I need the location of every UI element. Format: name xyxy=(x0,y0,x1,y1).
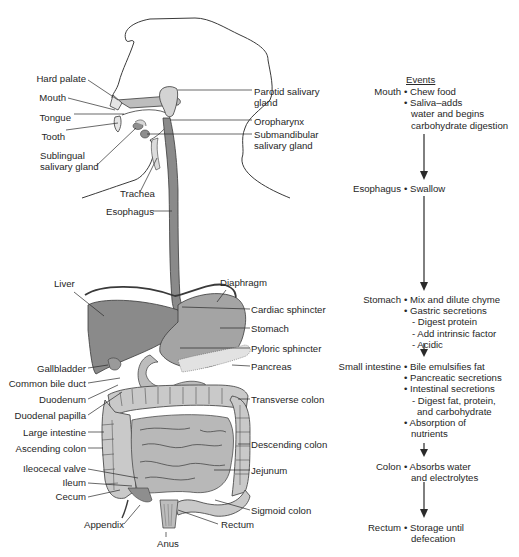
label-common-bile-duct: Common bile duct xyxy=(0,378,86,389)
event-item: • Saliva–adds xyxy=(404,97,508,108)
event-item: and carbohydrate xyxy=(404,406,502,417)
event-item: - Add intrinsic factor xyxy=(404,328,500,339)
appendix xyxy=(122,500,128,518)
label-cardiac-sphincter: Cardiac sphincter xyxy=(251,304,326,315)
small-intestine xyxy=(131,415,233,493)
label-pancreas: Pancreas xyxy=(251,361,292,372)
event-stage-label: Stomach xyxy=(302,294,401,305)
label-diaphragm: Diaphragm xyxy=(220,277,267,288)
event-item: and electrolytes xyxy=(404,472,478,483)
label-large-intestine: Large intestine xyxy=(0,427,86,438)
event-stage-label: Small intestine xyxy=(302,361,401,372)
label-appendix: Appendix xyxy=(84,519,124,530)
event-stage-label: Esophagus xyxy=(302,183,401,194)
event-item: • Bile emulsifies fat xyxy=(404,361,502,372)
label-sigmoid-colon: Sigmoid colon xyxy=(251,505,311,516)
cecum xyxy=(128,488,152,502)
event-stage-label: Rectum xyxy=(302,522,401,533)
events-title: Events xyxy=(406,74,435,85)
label-duodenum: Duodenum xyxy=(0,394,86,405)
parotid-gland xyxy=(160,87,178,117)
label-jejunum: Jejunum xyxy=(251,465,287,476)
figure-caption-cropped xyxy=(22,549,222,555)
label-cecum: Cecum xyxy=(0,491,86,502)
event-item: • Chew food xyxy=(404,86,508,97)
label-trachea: Trachea xyxy=(120,188,155,199)
trachea xyxy=(151,138,160,170)
label-transverse-colon: Transverse colon xyxy=(251,394,324,405)
label-anus: Anus xyxy=(157,538,179,549)
event-item: • Mix and dilute chyme xyxy=(404,294,500,305)
event-stage-label: Mouth xyxy=(302,86,401,97)
label-submandibular-salivary-gland: Submandibular salivary gland xyxy=(254,129,319,151)
label-pyloric-sphincter: Pyloric sphincter xyxy=(251,343,321,354)
event-item: • Absorbs water xyxy=(404,461,478,472)
label-duodenal-papilla: Duodenal papilla xyxy=(0,410,86,421)
event-item: • Absorption of xyxy=(404,417,502,428)
label-tongue: Tongue xyxy=(20,112,71,123)
label-esophagus: Esophagus xyxy=(106,206,154,217)
event-item: • Storage until xyxy=(404,522,464,533)
event-item: • Swallow xyxy=(404,183,445,194)
event-stage-label: Colon xyxy=(302,461,401,472)
label-tooth: Tooth xyxy=(20,131,65,142)
event-item: • Gastric secretions xyxy=(404,305,500,316)
event-item: • Intestinal secretions xyxy=(404,383,502,394)
event-item: carbohydrate digestion xyxy=(404,120,508,131)
event-item: • Pancreatic secretions xyxy=(404,372,502,383)
esophagus xyxy=(163,118,190,318)
label-stomach: Stomach xyxy=(251,323,289,334)
event-item: - Digest protein xyxy=(404,316,500,327)
label-gallbladder: Gallbladder xyxy=(0,363,86,374)
label-oropharynx: Oropharynx xyxy=(254,116,304,127)
event-item: nutrients xyxy=(404,428,502,439)
label-ileum: Ileum xyxy=(0,477,86,488)
label-descending-colon: Descending colon xyxy=(251,439,327,450)
label-liver: Liver xyxy=(54,278,75,289)
event-item: - Digest fat, protein, xyxy=(404,395,502,406)
event-item: defecation xyxy=(404,533,464,544)
event-item: water and begins xyxy=(404,108,508,119)
gallbladder xyxy=(108,358,121,370)
label-sublingual-salivary-gland: Sublingual salivary gland xyxy=(40,150,99,172)
label-hard-palate: Hard palate xyxy=(20,73,86,84)
event-item: - Acidic xyxy=(404,339,500,350)
label-mouth: Mouth xyxy=(20,92,66,103)
label-ascending-colon: Ascending colon xyxy=(0,443,86,454)
label-ileocecal-valve: Ileocecal valve xyxy=(0,463,86,474)
label-rectum: Rectum xyxy=(221,519,254,530)
